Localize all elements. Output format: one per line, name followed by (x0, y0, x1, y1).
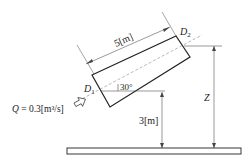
z-arrow-top (212, 46, 216, 51)
pipe-diagram: 5[m] D2 D1 30° Q = 0.3[m³/s] 3[m] Z (0, 0, 249, 168)
height-label: 3[m] (139, 115, 158, 126)
inlet-label: D1 (83, 83, 95, 96)
length-label: 5[m] (112, 31, 134, 49)
height-arrow-bottom (160, 143, 164, 148)
z-arrow-bottom (212, 143, 216, 148)
outlet-label: D2 (179, 26, 191, 39)
ground-slab (67, 148, 241, 154)
flow-arrow-icon (73, 95, 88, 109)
height-arrow-top (160, 92, 164, 97)
z-label: Z (204, 92, 210, 103)
pipe-body (92, 36, 190, 107)
extension-line-right (162, 12, 176, 36)
arrowhead-right (163, 27, 170, 32)
flow-rate-label: Q = 0.3[m³/s] (12, 104, 64, 114)
angle-label: 30° (120, 82, 133, 92)
arrowhead-left (86, 59, 93, 64)
